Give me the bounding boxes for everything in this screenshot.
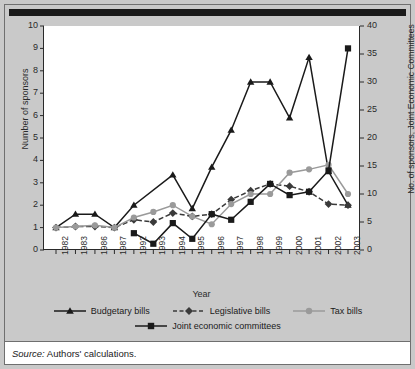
y-tick-label-left: 1 bbox=[20, 222, 38, 232]
x-tick-label: 1992 bbox=[138, 236, 148, 255]
x-tick-label: 1982 bbox=[60, 236, 70, 255]
legend-item-joint-economic-committees[interactable]: Joint economic committees bbox=[134, 320, 281, 332]
legend-label: Tax bills bbox=[330, 306, 362, 316]
x-tick-label: 2002 bbox=[333, 236, 343, 255]
x-tick-label: 1986 bbox=[99, 236, 109, 255]
x-tick-label: 2001 bbox=[313, 236, 323, 255]
legend-row: Budgetary billsLegislative billsTax bill… bbox=[9, 303, 406, 318]
x-tick-label: 1993 bbox=[157, 236, 167, 255]
x-tick-label: 1996 bbox=[216, 236, 226, 255]
source-prefix: Source: bbox=[12, 348, 45, 359]
source-text: Authors' calculations. bbox=[45, 348, 137, 359]
x-tick-label: 1994 bbox=[177, 236, 187, 255]
series-joint-economic-committees bbox=[131, 45, 351, 247]
y-tick-label-left: 5 bbox=[20, 132, 38, 142]
y-tick-label-right: 30 bbox=[367, 76, 387, 86]
y-tick-label-left: 3 bbox=[20, 177, 38, 187]
y-tick-label-right: 40 bbox=[367, 20, 387, 30]
y-tick-label-right: 25 bbox=[367, 104, 387, 114]
y-tick-label-left: 9 bbox=[20, 42, 38, 52]
y-tick-label-right: 0 bbox=[367, 244, 387, 254]
legend-label: Budgetary bills bbox=[91, 306, 150, 316]
x-tick-label: 1987 bbox=[118, 236, 128, 255]
source-note: Source: Authors' calculations. bbox=[12, 348, 136, 359]
y-tick-label-right: 20 bbox=[367, 132, 387, 142]
legend-item-budgetary-bills[interactable]: Budgetary bills bbox=[53, 305, 150, 317]
chart-legend: Budgetary billsLegislative billsTax bill… bbox=[9, 303, 406, 333]
y-tick-label-right: 35 bbox=[367, 48, 387, 58]
y-tick-label-right: 15 bbox=[367, 160, 387, 170]
y-tick-label-left: 0 bbox=[20, 244, 38, 254]
legend-swatch-triangle bbox=[53, 305, 87, 317]
legend-swatch-circle bbox=[292, 305, 326, 317]
y-tick-label-left: 2 bbox=[20, 199, 38, 209]
series-tax-bills bbox=[53, 162, 351, 231]
y-tick-label-left: 8 bbox=[20, 65, 38, 75]
legend-label: Joint economic committees bbox=[172, 321, 281, 331]
x-tick-label: 2003 bbox=[352, 236, 362, 255]
series-budgetary-bills bbox=[52, 54, 351, 231]
x-tick-label: 1983 bbox=[79, 236, 89, 255]
legend-item-legislative-bills[interactable]: Legislative bills bbox=[172, 305, 271, 317]
y-axis-right-title: No. of sponsors, Joint Economic Committe… bbox=[406, 0, 415, 234]
legend-item-tax-bills[interactable]: Tax bills bbox=[292, 305, 362, 317]
legend-row: Joint economic committees bbox=[9, 318, 406, 333]
y-tick-label-left: 10 bbox=[20, 20, 38, 30]
y-tick-label-right: 5 bbox=[367, 216, 387, 226]
y-tick-label-right: 10 bbox=[367, 188, 387, 198]
x-tick-label: 1997 bbox=[235, 236, 245, 255]
y-tick-label-left: 7 bbox=[20, 87, 38, 97]
x-tick-label: 1999 bbox=[274, 236, 284, 255]
legend-swatch-diamond bbox=[172, 305, 206, 317]
x-tick-label: 1998 bbox=[255, 236, 265, 255]
y-tick-label-left: 4 bbox=[20, 154, 38, 164]
y-tick-label-left: 6 bbox=[20, 110, 38, 120]
x-tick-label: 1995 bbox=[196, 236, 206, 255]
figure-container: Number of sponsors No. of sponsors, Join… bbox=[0, 0, 415, 369]
legend-label: Legislative bills bbox=[210, 306, 271, 316]
x-tick-label: 2000 bbox=[294, 236, 304, 255]
x-axis-title: Year bbox=[43, 289, 360, 299]
legend-swatch-square bbox=[134, 320, 168, 332]
